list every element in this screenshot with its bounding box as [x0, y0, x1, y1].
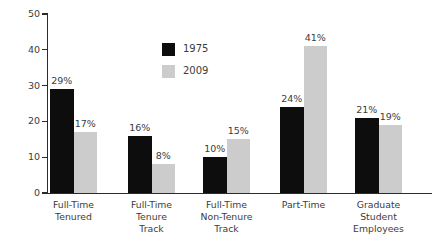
- y-axis-tick-label-text: 30: [16, 81, 40, 91]
- y-axis-line: [47, 13, 48, 194]
- category-label-2: Full-Time Tenure Track: [112, 199, 192, 236]
- bar-2009-group-4: [304, 46, 328, 193]
- bar-value-label-1975-group-2: 16%: [122, 122, 158, 133]
- y-axis-tick-label-text: 20: [16, 116, 40, 126]
- legend-swatch-icon-2009: [162, 65, 175, 78]
- legend-item-1975: 1975: [162, 40, 208, 58]
- y-axis-tick: [42, 192, 48, 193]
- bar-1975-group-2: [128, 136, 152, 193]
- bar-value-label-1975-group-1: 29%: [44, 75, 80, 86]
- category-label-3: Full-Time Non-Tenure Track: [187, 199, 267, 236]
- category-label-4: Part-Time: [264, 199, 344, 211]
- category-label-5: Graduate Student Employees: [339, 199, 419, 236]
- bar-2009-group-5: [379, 125, 403, 193]
- chart-legend: 1975 2009: [162, 40, 208, 84]
- legend-label-1975: 1975: [183, 43, 208, 55]
- y-axis-tick: [42, 49, 48, 50]
- bar-1975-group-5: [355, 118, 379, 193]
- legend-item-2009: 2009: [162, 62, 208, 80]
- bar-value-label-2009-group-1: 17%: [68, 118, 104, 129]
- bar-value-label-2009-group-2: 8%: [146, 150, 182, 161]
- legend-swatch-icon-1975: [162, 43, 175, 56]
- y-axis-tick-label: 10: [8, 152, 40, 162]
- y-axis-tick-label: 30: [8, 81, 40, 91]
- legend-label-2009: 2009: [183, 65, 208, 77]
- plot-area: 01020304050 29%16%10%24%21%17%8%15%41%19…: [0, 0, 439, 250]
- y-axis-tick: [42, 13, 48, 14]
- y-axis-tick-label-text: 50: [16, 9, 40, 19]
- bar-1975-group-4: [280, 107, 304, 193]
- bar-2009-group-3: [227, 139, 251, 193]
- bar-2009-group-2: [152, 164, 176, 193]
- y-axis-tick-label: 50: [8, 9, 40, 19]
- bar-value-label-2009-group-4: 41%: [298, 32, 334, 43]
- bar-1975-group-1: [50, 89, 74, 193]
- y-axis-tick: [42, 157, 48, 158]
- y-axis-tick-label-text: 40: [16, 45, 40, 55]
- bar-value-label-2009-group-3: 15%: [221, 125, 257, 136]
- y-axis-tick-label: 40: [8, 45, 40, 55]
- x-axis-line: [47, 193, 432, 194]
- bar-chart: 01020304050 29%16%10%24%21%17%8%15%41%19…: [0, 0, 439, 250]
- category-label-1: Full-Time Tenured: [34, 199, 114, 223]
- y-axis-tick-label-text: 0: [16, 188, 40, 198]
- bar-value-label-2009-group-5: 19%: [373, 111, 409, 122]
- y-axis-tick-label-text: 10: [16, 152, 40, 162]
- bar-2009-group-1: [74, 132, 98, 193]
- bar-1975-group-3: [203, 157, 227, 193]
- y-axis-tick-label: 0: [8, 188, 40, 198]
- y-axis-tick: [42, 121, 48, 122]
- y-axis-tick-label: 20: [8, 116, 40, 126]
